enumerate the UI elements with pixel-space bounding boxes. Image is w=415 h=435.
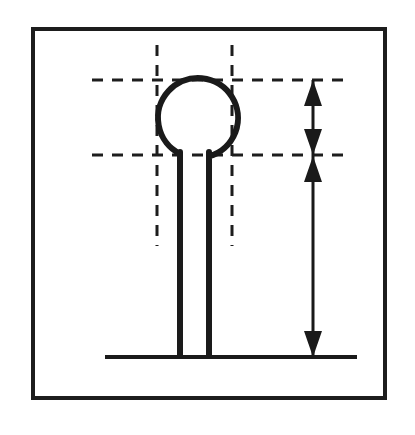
technical-drawing-svg xyxy=(0,0,415,435)
drawing-canvas: Ball-end pin dimensioned drawing Enginee… xyxy=(0,0,415,435)
